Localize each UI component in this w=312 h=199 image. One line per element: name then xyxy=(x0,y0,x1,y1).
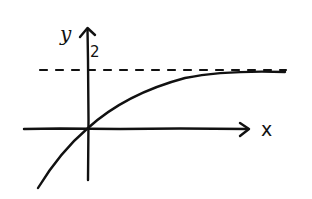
y-axis xyxy=(88,29,89,180)
x-axis xyxy=(24,129,248,130)
graph-canvas xyxy=(0,0,312,199)
asymptote-label: 2 xyxy=(90,45,100,60)
x-axis-label: x xyxy=(261,120,272,139)
y-axis-label: y xyxy=(60,24,71,44)
